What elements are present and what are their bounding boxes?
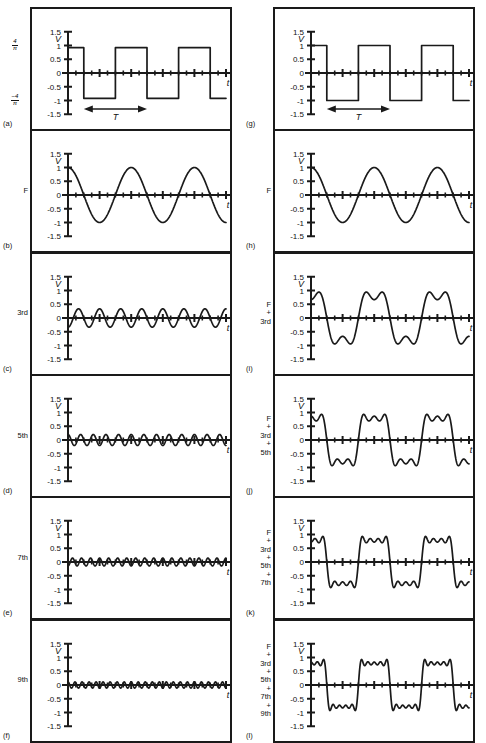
y-axis-title: V	[55, 646, 62, 656]
y-tick-label: 0.5	[293, 422, 305, 431]
series-label-line: F	[0, 187, 28, 195]
y-tick-label: 0.5	[50, 178, 62, 187]
x-axis-title: t	[470, 567, 473, 577]
x-axis-title: t	[227, 78, 230, 88]
y-axis-title: V	[298, 646, 305, 656]
x-axis-title: t	[470, 200, 473, 210]
y-tick-label: -0.5	[47, 450, 61, 459]
x-axis-title: t	[227, 567, 230, 577]
y-tick-label: 0.5	[50, 300, 62, 309]
y-tick-label: -0.5	[290, 572, 304, 581]
panel-h-series-label: F	[243, 187, 271, 195]
y-axis-title: V	[55, 34, 62, 44]
plot-canvas-i: 1.510.50-0.5-1-1.5Vt	[275, 254, 473, 374]
y-tick-label: -0.5	[47, 694, 61, 703]
y-tick-label: -1.5	[47, 722, 61, 731]
plot-panel-b: 1.510.50-0.5-1-1.5Vt	[30, 129, 232, 253]
panel-tag-e: (e)	[3, 608, 12, 617]
period-label: T	[356, 112, 363, 122]
panel-a-amplitude-fraction: −4π	[4, 91, 26, 109]
y-tick-label: 0	[57, 191, 62, 200]
panel-tag-b: (b)	[3, 241, 12, 250]
y-tick-label: 0.5	[293, 55, 305, 64]
plot-panel-a: 1.510.50-0.5-1-1.5VtT	[30, 7, 232, 131]
y-tick-label: 0.5	[50, 422, 62, 431]
plot-panel-g: 1.510.50-0.5-1-1.5VtT	[273, 7, 475, 131]
y-tick-label: 0	[57, 314, 62, 323]
series-label-line: 7th	[243, 579, 271, 587]
series-label-line: 3rd	[243, 318, 271, 326]
y-tick-label: -1.5	[47, 110, 61, 119]
period-marker-a: T	[84, 106, 147, 122]
y-tick-label: -0.5	[47, 83, 61, 92]
plot-canvas-a: 1.510.50-0.5-1-1.5VtT	[32, 9, 230, 129]
series-label-line: 5th	[0, 432, 28, 440]
y-tick-label: -1	[297, 341, 305, 350]
panel-tag-l: (l)	[246, 731, 253, 740]
panel-tag-j: (j)	[246, 486, 253, 495]
left-column: 4π−4π(a)1.510.50-0.5-1-1.5VtTF(b)1.510.5…	[0, 0, 243, 738]
y-axis-title: V	[298, 157, 305, 167]
plot-canvas-e: 1.510.50-0.5-1-1.5Vt	[32, 498, 230, 618]
plot-canvas-k: 1.510.50-0.5-1-1.5Vt	[275, 498, 473, 618]
y-tick-label: -1	[297, 97, 305, 106]
plot-panel-f: 1.510.50-0.5-1-1.5Vt	[30, 619, 232, 743]
plot-panel-i: 1.510.50-0.5-1-1.5Vt	[273, 252, 475, 376]
y-axis-title: V	[298, 401, 305, 411]
y-tick-label: -0.5	[290, 83, 304, 92]
plot-panel-h: 1.510.50-0.5-1-1.5Vt	[273, 129, 475, 253]
panel-b-series-label: F	[0, 187, 28, 195]
y-tick-label: 0	[300, 314, 305, 323]
y-axis-title: V	[298, 34, 305, 44]
y-tick-label: -1	[297, 463, 305, 472]
y-tick-label: 0	[57, 69, 62, 78]
period-arrow-head-left	[327, 106, 336, 113]
panel-tag-c: (c)	[3, 364, 12, 373]
y-tick-label: -0.5	[290, 327, 304, 336]
y-tick-label: -1	[297, 219, 305, 228]
y-tick-label: -0.5	[47, 327, 61, 336]
period-label: T	[113, 112, 120, 122]
plot-panel-l: 1.510.50-0.5-1-1.5Vt	[273, 619, 475, 743]
period-arrow-head-right	[138, 106, 147, 113]
y-tick-label: -1	[54, 586, 62, 595]
y-axis-title: V	[55, 524, 62, 534]
x-axis-title: t	[227, 323, 230, 333]
plot-canvas-b: 1.510.50-0.5-1-1.5Vt	[32, 131, 230, 251]
y-tick-label: -1.5	[47, 599, 61, 608]
panel-e-series-label: 7th	[0, 554, 28, 562]
y-tick-label: 0	[300, 681, 305, 690]
plot-panel-c: 1.510.50-0.5-1-1.5Vt	[30, 252, 232, 376]
y-tick-label: -0.5	[290, 694, 304, 703]
y-tick-label: 0	[300, 191, 305, 200]
y-tick-label: -1	[54, 341, 62, 350]
panel-j-series-label: F+3rd+5th	[243, 415, 271, 457]
y-tick-label: -1.5	[47, 233, 61, 242]
panel-tag-i: (i)	[246, 364, 253, 373]
panel-d-series-label: 5th	[0, 432, 28, 440]
period-arrow-head-right	[381, 106, 390, 113]
y-tick-label: -0.5	[290, 205, 304, 214]
plot-canvas-f: 1.510.50-0.5-1-1.5Vt	[32, 621, 230, 741]
plot-panel-e: 1.510.50-0.5-1-1.5Vt	[30, 496, 232, 620]
y-tick-label: -1	[54, 219, 62, 228]
period-marker-g: T	[327, 106, 390, 122]
y-tick-label: -1	[297, 586, 305, 595]
y-axis-title: V	[298, 524, 305, 534]
y-axis-title: V	[55, 157, 62, 167]
plot-canvas-d: 1.510.50-0.5-1-1.5Vt	[32, 376, 230, 496]
plot-panel-j: 1.510.50-0.5-1-1.5Vt	[273, 374, 475, 498]
plot-canvas-j: 1.510.50-0.5-1-1.5Vt	[275, 376, 473, 496]
y-tick-label: 0.5	[50, 544, 62, 553]
y-tick-label: 0	[57, 681, 62, 690]
y-tick-label: -1.5	[290, 355, 304, 364]
series-label-line: 5th	[243, 449, 271, 457]
panel-tag-a: (a)	[3, 119, 12, 128]
panel-tag-k: (k)	[246, 608, 255, 617]
y-tick-label: -1.5	[47, 355, 61, 364]
plot-canvas-l: 1.510.50-0.5-1-1.5Vt	[275, 621, 473, 741]
y-tick-label: -1.5	[290, 233, 304, 242]
fraction-denominator: π	[12, 46, 18, 52]
y-tick-label: -1.5	[290, 722, 304, 731]
x-axis-title: t	[470, 445, 473, 455]
